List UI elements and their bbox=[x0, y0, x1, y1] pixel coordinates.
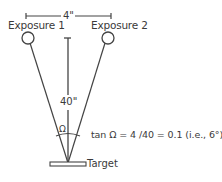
horizontal-distance-label: 4" bbox=[62, 11, 75, 21]
exposure-2-label: Exposure 2 bbox=[91, 20, 148, 31]
exposure-2-source-icon bbox=[102, 32, 114, 44]
tangent-equation: tan Ω = 4 /40 = 0.1 (i.e., 6°) bbox=[91, 130, 222, 140]
target-label: Target bbox=[87, 159, 118, 169]
target-bar bbox=[50, 162, 86, 166]
angle-omega-label: Ω bbox=[59, 125, 66, 134]
exposure-1-label: Exposure 1 bbox=[8, 20, 65, 31]
vertical-distance-label: 40" bbox=[59, 97, 78, 107]
exposure-geometry-diagram: Exposure 1 Exposure 2 4" 40" Ω tan Ω = 4… bbox=[0, 0, 222, 182]
exposure-1-source-icon bbox=[22, 32, 34, 44]
